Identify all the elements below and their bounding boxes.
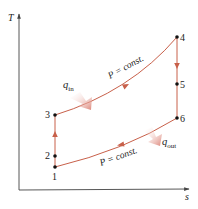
state-point-6 [175, 116, 179, 120]
arrow-left-icon [117, 142, 125, 147]
s-axis [19, 189, 189, 190]
arrow-up-icon [52, 131, 58, 137]
t-axis-label: T [8, 12, 15, 23]
state-label-1: 1 [52, 171, 57, 182]
state-label-2: 2 [45, 150, 50, 161]
lower-process-label: P = const. [97, 145, 138, 168]
upper-process-label: P = const. [105, 53, 145, 81]
state-point-1 [53, 165, 57, 169]
state-label-3: 3 [45, 109, 50, 120]
heat-arrows [70, 92, 162, 146]
state-point-2 [53, 154, 57, 158]
ts-diagram: T s qin qout P = const. P = const. [0, 0, 198, 209]
q-in-label: qin [63, 79, 74, 93]
q-in-arrow-icon [70, 92, 92, 110]
state-point-5 [175, 82, 179, 86]
arrow-down-icon [174, 63, 180, 69]
process-lines [55, 37, 177, 167]
q-out-arrow-icon [144, 127, 162, 146]
axes: T s [8, 12, 189, 202]
state-label-6: 6 [180, 113, 185, 124]
state-label-4: 4 [180, 32, 185, 43]
state-point-4 [175, 35, 179, 39]
state-point-3 [53, 113, 57, 117]
arrow-right-icon [122, 84, 129, 90]
state-label-5: 5 [180, 79, 185, 90]
s-axis-label: s [185, 191, 189, 202]
q-out-label: qout [162, 136, 176, 150]
